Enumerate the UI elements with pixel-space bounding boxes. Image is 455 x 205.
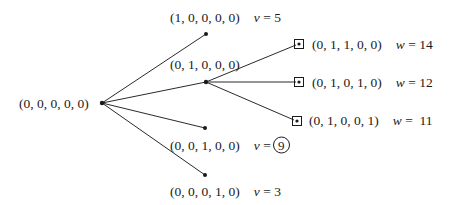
bound-value: v = 5 <box>254 10 281 25</box>
node-label-01010: (0, 1, 0, 1, 0)w = 12 <box>312 75 433 91</box>
bound-value: v =9 <box>254 138 290 153</box>
tree-diagram: (0, 0, 0, 0, 0) (1, 0, 0, 0, 0)v = 5 (0,… <box>0 0 455 205</box>
boxed-node-01100 <box>295 40 304 49</box>
node-label-10000: (1, 0, 0, 0, 0)v = 5 <box>170 10 281 26</box>
tuple-text: (0, 0, 1, 0, 0) <box>170 138 240 153</box>
boxed-node-01001 <box>293 117 302 126</box>
tuple-text: (0, 1, 0, 0, 0) <box>170 57 240 72</box>
node-01000 <box>204 80 208 84</box>
weight-value: w = 11 <box>393 113 433 128</box>
node-label-01001: (0, 1, 0, 0, 1)w = 11 <box>309 113 433 129</box>
node-label-01000: (0, 1, 0, 0, 0) <box>170 57 240 73</box>
tuple-text: (1, 0, 0, 0, 0) <box>170 10 240 25</box>
node-label-01100: (0, 1, 1, 0, 0)w = 14 <box>312 37 433 53</box>
tuple-text: (0, 1, 0, 1, 0) <box>312 75 382 90</box>
root-label: (0, 0, 0, 0, 0) <box>19 96 89 112</box>
circled-optimal-value: 9 <box>273 137 290 154</box>
tuple-text: (0, 1, 1, 0, 0) <box>312 37 382 52</box>
node-00100 <box>203 126 207 130</box>
node-10000 <box>204 32 208 36</box>
edge-root-to-00100 <box>102 103 205 128</box>
weight-value: w = 14 <box>396 37 433 52</box>
tuple-text: (0, 0, 0, 1, 0) <box>170 184 240 199</box>
root-tuple: (0, 0, 0, 0, 0) <box>19 96 89 111</box>
node-00010 <box>203 173 207 177</box>
node-label-00010: (0, 0, 0, 1, 0)v = 3 <box>170 184 281 200</box>
weight-value: w = 12 <box>396 75 433 90</box>
node-root <box>100 101 104 105</box>
node-label-00100: (0, 0, 1, 0, 0)v =9 <box>170 137 290 154</box>
edge-01000-to-01001 <box>206 82 294 120</box>
bound-value: v = 3 <box>254 184 281 199</box>
tuple-text: (0, 1, 0, 0, 1) <box>309 113 379 128</box>
